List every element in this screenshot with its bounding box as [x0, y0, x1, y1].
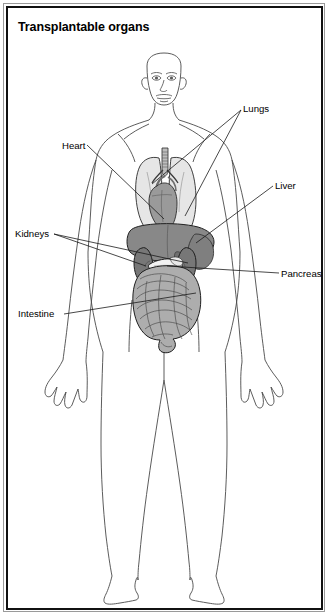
- chin-line: [160, 101, 168, 102]
- neck-outline: [149, 103, 155, 120]
- pupil-right-icon: [170, 76, 173, 79]
- arm-right-outer: [232, 160, 265, 360]
- clavicle-right: [179, 124, 204, 139]
- shoulder-crease-left: [118, 134, 135, 162]
- nose-outline: [160, 80, 167, 92]
- abdomen-line-left: [129, 300, 132, 352]
- label-kidneys: Kidneys: [15, 229, 49, 239]
- pupil-left-icon: [155, 76, 158, 79]
- head-outline: [147, 53, 181, 105]
- label-heart: Heart: [62, 141, 85, 151]
- mouth-outline: [156, 95, 172, 97]
- ear-right-outline: [180, 78, 186, 89]
- label-liver: Liver: [275, 181, 296, 191]
- leg-right-outer: [216, 352, 227, 576]
- label-intestine: Intestine: [18, 309, 54, 319]
- mouth-line: [157, 98, 171, 99]
- clavicle-left: [124, 124, 149, 139]
- leader-line-lungs-a: [152, 110, 241, 184]
- arm-right-inner: [216, 170, 242, 362]
- foot-right-outline: [190, 576, 224, 604]
- leg-left-outer: [101, 352, 112, 576]
- hand-left-outline: [45, 360, 87, 408]
- arm-left-inner: [86, 170, 112, 362]
- brow-right: [166, 73, 177, 75]
- arm-left-outer: [63, 160, 96, 360]
- brow-left: [151, 73, 162, 75]
- leg-right-inner: [164, 380, 190, 580]
- label-pancreas: Pancreas: [281, 269, 322, 279]
- foot-left-outline: [104, 576, 138, 604]
- label-lungs: Lungs: [243, 104, 269, 114]
- face-features-group: [151, 73, 177, 102]
- hand-right-outline: [241, 360, 283, 408]
- neck-outline-right: [173, 103, 179, 120]
- ear-left-outline: [142, 78, 148, 89]
- organs-group: [127, 148, 214, 353]
- leg-left-inner: [138, 380, 164, 580]
- leader-line-liver: [196, 186, 273, 243]
- figure-panel: Transplantable organs: [0, 0, 329, 616]
